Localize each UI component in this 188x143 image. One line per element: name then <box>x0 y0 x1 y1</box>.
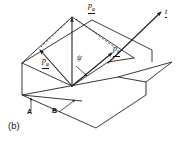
figure-caption: (b) <box>8 121 20 131</box>
vector-diagram-canvas <box>0 0 188 143</box>
label-psi-angle: ψ <box>77 54 82 62</box>
label-p-theta: pθ <box>113 45 120 57</box>
label-t-vector: t <box>165 8 167 18</box>
label-p-phi-left-subscript: φ <box>46 61 49 67</box>
label-p-phi-top-subscript: φ <box>92 6 95 12</box>
psi-angle-arrow <box>76 66 87 76</box>
construction-lines-dashed <box>41 19 114 47</box>
plane-lower-horizontal <box>22 62 172 128</box>
label-p-phi-left: pφ <box>42 57 49 69</box>
label-p-phi-top: pφ <box>88 2 95 14</box>
label-p-theta-subscript: θ <box>117 49 120 55</box>
figure-root: pφ pφ pθ t ψ A B (b) <box>0 0 188 143</box>
label-plane-b: B <box>52 107 57 114</box>
plane-b-pointer-arrow <box>59 100 75 112</box>
label-plane-a: A <box>27 108 32 115</box>
